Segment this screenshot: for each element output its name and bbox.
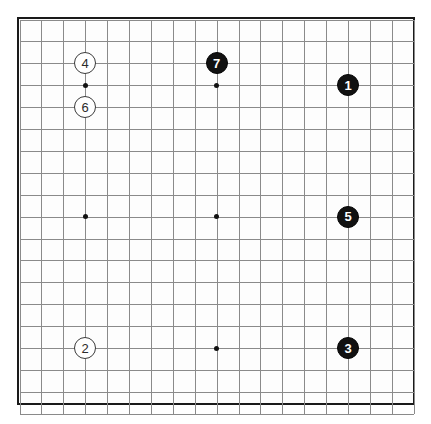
stone-label: 1 <box>344 78 351 91</box>
grid-line-horizontal-13 <box>20 304 414 305</box>
grid-line-vertical-10 <box>239 20 240 414</box>
grid-line-vertical-16 <box>370 20 371 414</box>
go-board-diagram: 1234567 <box>0 0 431 424</box>
star-point-lower-middle <box>214 346 219 351</box>
grid-line-horizontal-12 <box>20 282 414 283</box>
grid-line-horizontal-17 <box>20 392 414 393</box>
grid-line-vertical-12 <box>282 20 283 414</box>
stone-label: 7 <box>213 56 220 69</box>
grid-line-horizontal-10 <box>20 239 414 240</box>
stone-white-6[interactable]: 6 <box>74 96 96 118</box>
stone-label: 3 <box>344 341 351 354</box>
stone-black-5[interactable]: 5 <box>337 206 359 228</box>
star-point-middle-left <box>83 214 88 219</box>
star-point-center <box>214 214 219 219</box>
stone-label: 2 <box>82 341 89 354</box>
stone-black-1[interactable]: 1 <box>337 74 359 96</box>
stone-black-7[interactable]: 7 <box>206 52 228 74</box>
stone-label: 5 <box>344 210 351 223</box>
grid-line-horizontal-14 <box>20 326 414 327</box>
star-point-upper-middle <box>214 83 219 88</box>
grid-line-vertical-11 <box>260 20 261 414</box>
grid-line-vertical-17 <box>392 20 393 414</box>
stone-label: 4 <box>82 56 89 69</box>
stone-white-4[interactable]: 4 <box>74 52 96 74</box>
stone-white-2[interactable]: 2 <box>74 337 96 359</box>
grid-line-horizontal-16 <box>20 370 414 371</box>
grid-line-vertical-14 <box>326 20 327 414</box>
stone-black-3[interactable]: 3 <box>337 337 359 359</box>
grid-line-horizontal-11 <box>20 260 414 261</box>
grid-line-vertical-13 <box>304 20 305 414</box>
stone-label: 6 <box>82 100 89 113</box>
grid-line-vertical-18 <box>414 20 415 414</box>
grid-line-horizontal-18 <box>20 414 414 415</box>
star-point-upper-left <box>83 83 88 88</box>
board-border: 1234567 <box>17 17 415 405</box>
